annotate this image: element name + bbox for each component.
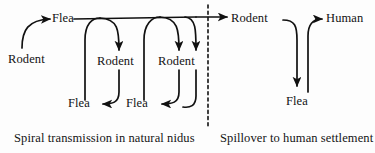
- node-human: Human: [326, 12, 363, 25]
- node-rodent-0: Rodent: [8, 53, 45, 66]
- node-flea-human-panel: Flea: [286, 95, 308, 108]
- edge-rodent0-to-flea0: [22, 19, 50, 48]
- node-rodent-2: Rodent: [158, 55, 195, 68]
- edge-flea-h-to-human: [308, 19, 322, 92]
- edge-rodent1-to-flea1: [103, 70, 119, 104]
- edge-rail-to-rodent2: [160, 17, 179, 50]
- edge-rail-to-rodent1: [100, 18, 119, 50]
- edge-rodent2-to-flea2: [162, 70, 179, 104]
- node-flea-0: Flea: [52, 12, 74, 25]
- edge-flea0-top-rail: [74, 17, 196, 19]
- edge-rail-to-rodent-divider: [185, 17, 196, 50]
- edge-divider-rodent-down: [183, 70, 196, 107]
- node-rodent-1: Rodent: [97, 55, 134, 68]
- node-rodent-human-panel: Rodent: [231, 12, 268, 25]
- caption-right-panel: Spillover to human settlement: [220, 131, 373, 146]
- caption-left-panel: Spiral transmission in natural nidus: [14, 131, 195, 146]
- edge-rodent-h-to-flea-h: [283, 20, 297, 86]
- transmission-diagram: Rodent Flea Rodent Flea Rodent Flea Rode…: [0, 0, 375, 153]
- node-flea-2: Flea: [126, 97, 148, 110]
- node-flea-1: Flea: [68, 97, 90, 110]
